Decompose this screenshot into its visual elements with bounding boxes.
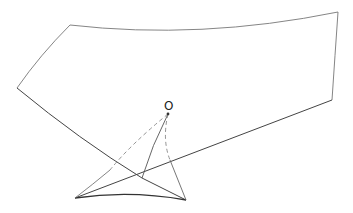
plane-right-edge [332,12,338,100]
point-o-marker [167,113,170,116]
plane-lower-right-line [75,100,332,198]
label-o: O [164,99,173,113]
line-o-to-intersection [142,114,168,178]
plane-top-edge [70,12,338,30]
plane-lower-left-line [17,88,186,200]
line-o-to-right-vertex-dashed [165,114,170,160]
line-o-to-left-vertex-dashed [110,114,168,170]
plane-left-edge [17,25,70,88]
diagram-canvas: O [0,0,353,213]
line-left-vertex-solid [75,170,110,198]
line-right-vertex-solid [170,160,186,200]
triangle-base [75,194,186,200]
